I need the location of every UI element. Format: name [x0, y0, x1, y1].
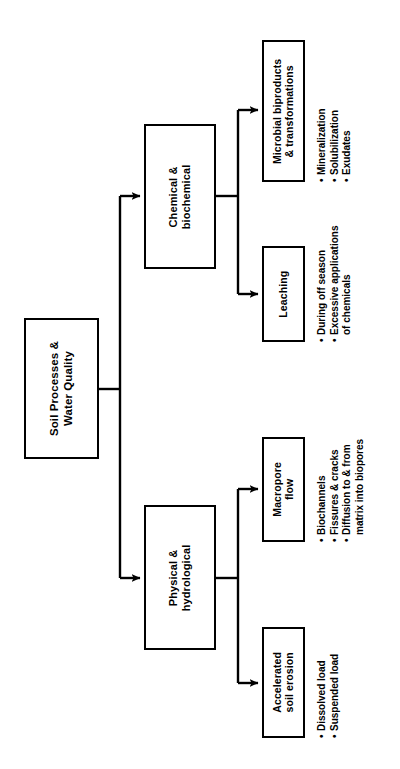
bullet-item-label: Excessive applications: [329, 225, 340, 335]
bullet-dot-icon: •: [316, 335, 329, 342]
bullet-dot-icon: •: [316, 175, 329, 182]
bullet-item: •Solubilization: [329, 108, 342, 182]
node-leaching-label: Leaching: [277, 271, 289, 318]
bullet-dot-icon: •: [341, 175, 354, 182]
bullet-item-label: of chemicals: [341, 274, 352, 335]
bullet-item: •During off season: [316, 225, 329, 342]
bullet-item: •Exudates: [341, 108, 354, 182]
bullet-item-label: Solubilization: [329, 110, 340, 175]
bullet-item: •Mineralization: [316, 108, 329, 182]
bullet-item: •Fissures & cracks: [329, 439, 342, 542]
bullet-dot-icon: •: [316, 535, 329, 542]
node-macropore-flow-label: Macropore flow: [271, 462, 296, 517]
bullet-dot-icon: •: [329, 731, 342, 738]
bullet-item-label: Mineralization: [316, 108, 327, 175]
node-macropore-flow[interactable]: Macropore flow: [262, 437, 305, 542]
bullet-item: of chemicals: [341, 225, 354, 342]
bullet-dot-icon: •: [329, 335, 342, 342]
node-microbial-biproducts-label: Microbial biproducts & transformations: [271, 58, 296, 163]
node-root-label: Soil Processes & Water Quality: [48, 341, 75, 436]
bullet-item: •Suspended load: [329, 654, 342, 738]
bullet-item: •Excessive applications: [329, 225, 342, 342]
flowchart-diagram: Soil Processes & Water Quality Chemical …: [0, 0, 400, 769]
bullets-leaching: •During off season•Excessive application…: [316, 225, 354, 342]
node-leaching[interactable]: Leaching: [262, 246, 305, 342]
node-microbial-biproducts[interactable]: Microbial biproducts & transformations: [262, 40, 305, 182]
bullet-indent: [354, 535, 367, 542]
node-physical-hydrological-label: Physical & hydrological: [167, 544, 193, 611]
bullets-macropore-flow: •Biochannels•Fissures & cracks•Diffusion…: [316, 439, 366, 542]
bullet-item: •Dissolved load: [316, 654, 329, 738]
node-physical-hydrological[interactable]: Physical & hydrological: [144, 505, 216, 650]
bullet-item-label: Diffusion to & from: [341, 444, 352, 535]
node-accelerated-soil-erosion[interactable]: Accelerated soil erosion: [262, 627, 305, 738]
bullets-accelerated-soil-erosion: •Dissolved load•Suspended load: [316, 654, 341, 738]
bullet-item: •Biochannels: [316, 439, 329, 542]
bullet-dot-icon: •: [329, 175, 342, 182]
bullet-item-label: matrix into biopores: [354, 439, 365, 535]
bullet-item-label: Exudates: [341, 131, 352, 175]
bullet-item-label: During off season: [316, 250, 327, 335]
bullet-item: •Diffusion to & from: [341, 439, 354, 542]
bullet-item-label: Biochannels: [316, 476, 327, 535]
node-accelerated-soil-erosion-label: Accelerated soil erosion: [271, 652, 296, 713]
bullet-dot-icon: •: [316, 731, 329, 738]
bullet-indent: [341, 335, 354, 342]
bullet-item-label: Dissolved load: [316, 660, 327, 731]
bullet-item: matrix into biopores: [354, 439, 367, 542]
bullet-item-label: Suspended load: [329, 654, 340, 731]
bullets-microbial-biproducts: •Mineralization•Solubilization•Exudates: [316, 108, 354, 182]
bullet-dot-icon: •: [329, 535, 342, 542]
node-root[interactable]: Soil Processes & Water Quality: [24, 318, 99, 459]
bullet-dot-icon: •: [341, 535, 354, 542]
node-chemical-biochemical[interactable]: Chemical & biochemical: [144, 124, 216, 269]
node-chemical-biochemical-label: Chemical & biochemical: [167, 164, 193, 229]
bullet-item-label: Fissures & cracks: [329, 449, 340, 535]
